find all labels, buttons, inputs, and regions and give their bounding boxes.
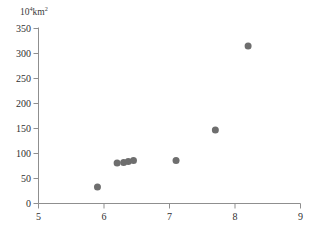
y-axis-tick-label: 150 <box>1 124 31 134</box>
y-axis-tick-label: 250 <box>1 74 31 84</box>
y-axis-ticks <box>34 29 39 204</box>
y-axis-tick-label: 50 <box>1 174 31 184</box>
y-axis-tick-label: 0 <box>1 199 31 209</box>
data-point <box>114 160 121 167</box>
x-axis-tick-label: 8 <box>225 212 245 222</box>
caption-sliver <box>8 228 306 232</box>
axis-lines <box>39 28 301 204</box>
x-axis-tick-label: 6 <box>94 212 114 222</box>
y-axis-tick-label: 100 <box>1 149 31 159</box>
data-point <box>94 184 101 191</box>
x-axis-tick-label: 7 <box>160 212 180 222</box>
y-axis-tick-label: 200 <box>1 99 31 109</box>
data-point <box>173 157 180 164</box>
y-axis-tick-label: 300 <box>1 49 31 59</box>
data-point <box>130 157 137 164</box>
x-axis-tick-label: 5 <box>29 212 49 222</box>
plot-area <box>0 0 313 235</box>
y-axis-tick-label: 350 <box>1 24 31 34</box>
data-point <box>212 127 219 134</box>
x-axis-tick-label: 9 <box>291 212 311 222</box>
data-point-group <box>94 43 252 191</box>
scatter-chart-figure: 104km2 050100150200250300350 56789 <box>0 0 313 235</box>
x-axis-ticks <box>39 204 301 209</box>
data-point <box>245 43 252 50</box>
